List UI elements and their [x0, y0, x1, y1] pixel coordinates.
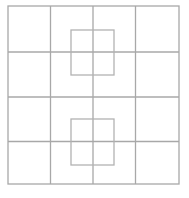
- figure-canvas: [0, 0, 189, 198]
- square-grid-figure: [0, 0, 189, 198]
